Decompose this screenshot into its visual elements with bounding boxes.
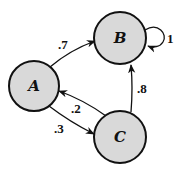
edge-c-to-a: .2: [59, 91, 106, 116]
arrow-c-to-b: [131, 65, 132, 112]
edge-label-a-to-c: .3: [54, 121, 64, 136]
arrow-c-to-a: [59, 91, 106, 116]
edge-label-c-to-a: .2: [71, 101, 81, 116]
edge-label-c-to-b: .8: [137, 81, 147, 96]
arrow-a-to-b: [50, 41, 95, 67]
edge-c-to-b: .8: [131, 65, 147, 112]
edge-b-self-loop: 1: [145, 27, 174, 47]
node-a-label: A: [26, 77, 40, 95]
node-b-label: B: [113, 29, 127, 47]
edge-label-a-to-b: .7: [58, 37, 68, 52]
node-a: A: [9, 61, 59, 111]
node-b: B: [94, 12, 146, 64]
edge-label-b-self-loop: 1: [167, 31, 174, 46]
edge-a-to-b: .7: [50, 37, 95, 67]
markov-chain-diagram: .7 1 .2 .3 .8 A B C: [0, 0, 181, 171]
node-c-label: C: [114, 128, 126, 146]
arrow-b-self-loop: [145, 27, 164, 47]
node-c: C: [94, 111, 146, 163]
